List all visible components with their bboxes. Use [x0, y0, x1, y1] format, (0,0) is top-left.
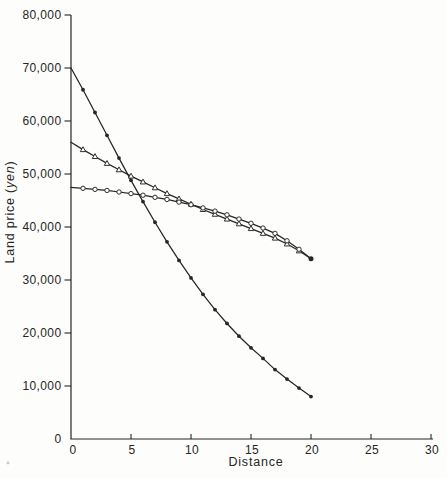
- marker-open-circle: [237, 217, 241, 221]
- y-tick-label: 60,000: [22, 114, 61, 128]
- marker-open-circle: [177, 200, 181, 204]
- marker-filled-circle: [105, 133, 109, 137]
- marker-open-triangle: [80, 147, 85, 152]
- marker-open-triangle: [260, 230, 265, 235]
- marker-filled-circle: [237, 334, 241, 338]
- x-origin-label: 0: [69, 443, 76, 457]
- marker-filled-circle: [129, 178, 133, 182]
- marker-open-circle: [153, 195, 157, 199]
- marker-filled-circle: [249, 346, 253, 350]
- marker-open-triangle: [128, 173, 133, 178]
- marker-filled-circle: [213, 308, 217, 312]
- marker-filled-circle: [273, 368, 277, 372]
- marker-open-circle: [129, 191, 133, 195]
- marker-open-circle: [285, 239, 289, 243]
- series-line-shallow-concave-decline: [71, 187, 311, 258]
- marker-open-circle: [273, 231, 277, 235]
- x-axis-title: Distance: [228, 455, 283, 469]
- marker-filled-circle: [81, 88, 85, 92]
- marker-open-circle: [93, 187, 97, 191]
- marker-filled-circle: [261, 357, 265, 361]
- marker-open-circle: [225, 213, 229, 217]
- marker-open-triangle: [248, 226, 253, 231]
- marker-open-triangle: [140, 179, 145, 184]
- y-tick-label: 80,000: [22, 8, 61, 22]
- marker-filled-circle: [309, 395, 313, 399]
- marker-filled-circle: [201, 292, 205, 296]
- marker-filled-circle: [153, 220, 157, 224]
- y-tick-label: 70,000: [22, 61, 61, 75]
- marker-open-circle: [189, 203, 193, 207]
- marker-open-triangle: [104, 161, 109, 166]
- marker-filled-circle: [285, 377, 289, 381]
- marker-open-circle: [201, 206, 205, 210]
- marker-filled-circle: [177, 258, 181, 262]
- y-tick-label: 30,000: [22, 273, 61, 287]
- y-origin-label: 0: [54, 432, 61, 446]
- marker-open-circle: [117, 190, 121, 194]
- marker-open-triangle: [152, 185, 157, 190]
- marker-filled-circle: [165, 240, 169, 244]
- x-tick-label: 30: [425, 443, 439, 457]
- y-tick-label: 20,000: [22, 326, 61, 340]
- y-tick-label: 40,000: [22, 220, 61, 234]
- x-tick-label: 20: [305, 443, 319, 457]
- y-tick-label: 50,000: [22, 167, 61, 181]
- marker-filled-circle: [117, 156, 121, 160]
- marker-open-circle: [249, 221, 253, 225]
- marker-filled-circle: [189, 276, 193, 280]
- x-tick-label: 5: [128, 443, 135, 457]
- marker-open-triangle: [116, 167, 121, 172]
- marker-filled-circle: [93, 111, 97, 115]
- marker-open-triangle: [92, 154, 97, 159]
- marker-filled-circle: [297, 386, 301, 390]
- marker-open-circle: [105, 188, 109, 192]
- y-tick-label: 10,000: [22, 379, 61, 393]
- marker-open-circle: [81, 186, 85, 190]
- axes-layer: [7, 15, 433, 464]
- figure-page: 10,00020,00030,00040,00050,00060,00070,0…: [0, 0, 447, 478]
- marker-open-triangle: [164, 191, 169, 196]
- labels-layer: 10,00020,00030,00040,00050,00060,00070,0…: [3, 8, 439, 469]
- marker-open-circle: [297, 247, 301, 251]
- x-tick-label: 10: [185, 443, 199, 457]
- x-tick-label: 25: [365, 443, 379, 457]
- series-layer: [71, 68, 314, 399]
- y-axis-title: Land price (yen): [3, 160, 17, 263]
- marker-open-circle: [213, 209, 217, 213]
- marker-open-circle: [165, 197, 169, 201]
- marker-filled-circle: [225, 322, 229, 326]
- land-price-vs-distance-chart: 10,00020,00030,00040,00050,00060,00070,0…: [0, 0, 447, 478]
- marker-open-circle: [141, 193, 145, 197]
- marker-open-circle: [261, 226, 265, 230]
- marker-filled-circle: [141, 200, 145, 204]
- scan-speck: [7, 462, 10, 465]
- endpoint-dot: [309, 256, 314, 261]
